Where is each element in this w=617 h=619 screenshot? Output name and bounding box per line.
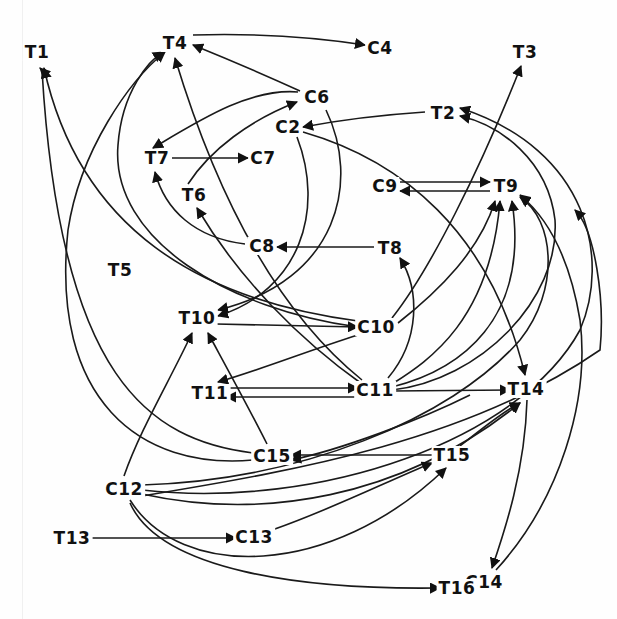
- edge-c13-to-t15: [272, 463, 432, 530]
- edge-c6-to-t4: [193, 45, 300, 91]
- node-c10: C10: [355, 318, 397, 336]
- edge-c8-to-t7: [155, 172, 245, 244]
- node-t7: T7: [143, 149, 171, 167]
- node-c7: C7: [248, 149, 277, 167]
- node-t16: T16: [437, 579, 478, 597]
- node-c12: C12: [103, 480, 145, 498]
- node-t10: T10: [177, 309, 218, 327]
- edge-c12-to-t15: [130, 468, 446, 557]
- edges-group: [40, 35, 601, 589]
- node-c9: C9: [370, 177, 399, 195]
- node-c2: C2: [273, 118, 302, 136]
- edge-c12b-to-t14b: [142, 210, 601, 496]
- node-t1: T1: [23, 43, 51, 61]
- node-c8: C8: [247, 237, 276, 255]
- node-c11: C11: [354, 381, 396, 399]
- edge-c12-to-t16: [130, 503, 440, 588]
- node-t5: T5: [106, 261, 134, 279]
- node-t8: T8: [376, 239, 404, 257]
- edge-c6-to-t10: [218, 110, 341, 310]
- node-t6: T6: [180, 186, 208, 204]
- node-t4: T4: [161, 34, 189, 52]
- edge-t14-to-c14: [492, 400, 527, 568]
- diagram-canvas: T1T4C4T3C6T2C2T7C7C9T9T6C8T8T5T10C10T11C…: [0, 0, 617, 619]
- node-t9: T9: [492, 177, 520, 195]
- edge-t2-to-c2: [303, 112, 425, 127]
- node-t3: T3: [511, 43, 539, 61]
- node-c15: C15: [251, 447, 293, 465]
- node-t11: T11: [190, 384, 231, 402]
- node-t15: T15: [432, 446, 473, 464]
- edge-c11-to-t14: [392, 390, 510, 391]
- node-c4: C4: [365, 39, 394, 57]
- edge-t4-to-c4: [193, 35, 365, 45]
- node-t2: T2: [429, 104, 457, 122]
- node-t13: T13: [52, 529, 93, 547]
- node-t14: T14: [506, 380, 547, 398]
- node-c13: C13: [233, 528, 275, 546]
- node-c6: C6: [302, 88, 331, 106]
